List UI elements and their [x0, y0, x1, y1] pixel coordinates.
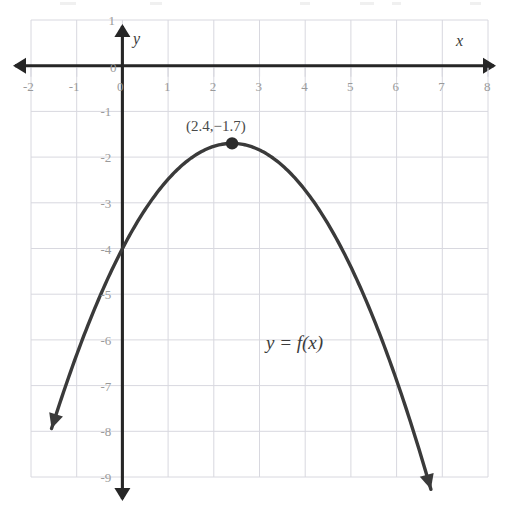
y-tick-label-neg1: -1 — [100, 105, 111, 118]
function-label: y = f(x) — [266, 333, 323, 352]
y-tick-label-neg9: -9 — [100, 471, 111, 484]
x-tick-label-4: 4 — [301, 80, 308, 93]
x-tick-label-2: 2 — [210, 80, 217, 93]
x-tick-label-1: 1 — [164, 80, 171, 93]
vertex-label: (2.4,−1.7) — [186, 119, 246, 134]
x-tick-label-3: 3 — [256, 80, 263, 93]
y-tick-label-neg5: -5 — [100, 288, 111, 301]
x-tick-label-8: 8 — [484, 80, 491, 93]
x-tick-label-6: 6 — [393, 80, 400, 93]
x-tick-label-7: 7 — [438, 80, 445, 93]
vertex-marker — [226, 137, 238, 149]
x-tick-label-5: 5 — [347, 80, 354, 93]
y-tick-label-neg7: -7 — [100, 380, 111, 393]
coordinate-plane — [0, 0, 505, 516]
x-tick-label-neg1: -1 — [69, 80, 80, 93]
x-axis-name: x — [456, 33, 463, 49]
origin-label-below-axis: 0 — [117, 80, 124, 93]
axes — [13, 24, 496, 501]
x-tick-label-neg2: -2 — [23, 80, 34, 93]
tick-marks — [31, 68, 488, 77]
y-tick-label-neg8: -8 — [100, 425, 111, 438]
graph-figure: y x 0 0 -2-112345678 1-1-2-3-4-5-6-7-8-9… — [0, 0, 505, 516]
y-tick-label-neg2: -2 — [100, 151, 111, 164]
y-tick-label-1: 1 — [108, 14, 115, 27]
y-tick-label-neg3: -3 — [100, 197, 111, 210]
origin-label-y-axis: 0 — [110, 61, 117, 74]
y-tick-label-neg4: -4 — [100, 243, 111, 256]
y-tick-label-neg6: -6 — [100, 334, 111, 347]
y-axis-name: y — [133, 31, 140, 47]
